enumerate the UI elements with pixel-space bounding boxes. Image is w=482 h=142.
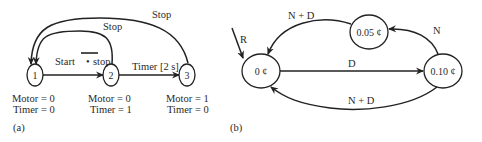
state-1-output-motor: Motor = 0: [12, 93, 55, 104]
state-3-output-motor: Motor = 1: [166, 93, 209, 104]
edge-1-to-2-label-dot: •: [86, 56, 90, 67]
edge-1-to-2-label-stop: stop: [93, 56, 111, 67]
diagram-a: 1 2 3 Stop Stop Start • stop Timer [2 s]…: [12, 9, 209, 134]
state-node-0c-label: 0 ¢: [255, 66, 268, 77]
state-node-2-label: 2: [109, 70, 114, 81]
diagram-b: R D N N + D N + D 0 ¢ 0.05 ¢ 0.10 ¢ (b): [230, 10, 462, 134]
edge-010-to-0-label: N + D: [348, 95, 375, 106]
edge-2-to-1-label: Stop: [103, 21, 122, 32]
caption-b: (b): [230, 122, 243, 134]
state-diagrams: 1 2 3 Stop Stop Start • stop Timer [2 s]…: [0, 0, 482, 142]
state-1-output-timer: Timer = 0: [13, 104, 55, 115]
state-node-1-label: 1: [33, 70, 38, 81]
state-2-output-timer: Timer = 1: [90, 104, 132, 115]
state-3-output-timer: Timer = 0: [167, 104, 209, 115]
state-node-010c-label: 0.10 ¢: [431, 66, 456, 77]
edge-010-to-005-label: N: [433, 25, 441, 36]
edge-3-to-1-label: Stop: [152, 9, 171, 20]
edge-010-to-005: [389, 29, 438, 54]
state-node-005c-label: 0.05 ¢: [357, 27, 382, 38]
initial-label: R: [240, 34, 247, 45]
edge-0-to-010-label: D: [348, 58, 356, 69]
state-2-output-motor: Motor = 0: [88, 93, 131, 104]
edge-1-to-2-label-start: Start: [55, 56, 75, 67]
caption-a: (a): [13, 122, 25, 134]
edge-005-to-0-label: N + D: [288, 10, 315, 21]
edge-2-to-3-label: Timer [2 s]: [132, 61, 179, 72]
state-node-3-label: 3: [185, 70, 190, 81]
edge-005-to-0: [268, 20, 351, 54]
